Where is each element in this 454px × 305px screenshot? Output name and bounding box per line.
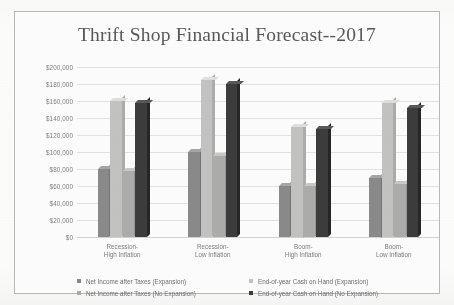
- bar: [135, 67, 147, 237]
- y-axis-tick: $120,000: [46, 132, 73, 139]
- bar: [188, 67, 200, 237]
- bar: [394, 67, 406, 237]
- y-axis-tick: $20,000: [50, 217, 73, 224]
- legend-item[interactable]: Net Income after Taxes (No Expansion): [77, 287, 249, 299]
- chart-frame: Thrift Shop Financial Forecast--2017 $0$…: [14, 11, 440, 294]
- legend-item[interactable]: End-of-year Cash on Hand (No Expansion): [249, 287, 437, 299]
- x-axis-label: Recession-Low Inflation: [168, 243, 259, 260]
- bar: [279, 67, 291, 237]
- y-axis-tick: $200,000: [46, 64, 73, 71]
- x-axis-label: Boom-High Inflation: [258, 243, 349, 260]
- y-axis-tick: $40,000: [50, 200, 73, 207]
- legend-swatch-icon: [77, 279, 81, 283]
- y-axis-tick: $100,000: [46, 149, 73, 156]
- legend-label: Net Income after Taxes (Expansion): [86, 278, 186, 285]
- gridline: [77, 237, 439, 238]
- bar-group: [77, 67, 168, 237]
- bar: [213, 67, 225, 237]
- bar-group: [349, 67, 440, 237]
- legend-label: End-of-year Cash on Hand (No Expansion): [258, 290, 378, 297]
- bar: [201, 67, 213, 237]
- legend-swatch-icon: [249, 291, 253, 295]
- plot-area: [77, 67, 439, 237]
- x-axis-label: Boom-Low Inflation: [349, 243, 440, 260]
- y-axis-tick: $0: [66, 234, 73, 241]
- y-axis-tick: $160,000: [46, 98, 73, 105]
- legend-item[interactable]: Net Income after Taxes (Expansion): [77, 275, 249, 287]
- y-axis-tick-labels: $0$20,000$40,000$60,000$80,000$100,000$1…: [25, 67, 73, 237]
- bar: [407, 67, 419, 237]
- legend-swatch-icon: [77, 291, 81, 295]
- bar: [98, 67, 110, 237]
- y-axis-tick: $80,000: [50, 166, 73, 173]
- bar: [110, 67, 122, 237]
- legend-swatch-icon: [249, 279, 253, 283]
- bar: [123, 67, 135, 237]
- chart-title: Thrift Shop Financial Forecast--2017: [15, 24, 439, 46]
- bar: [291, 67, 303, 237]
- legend-label: End-of-year Cash on Hand (Expansion): [258, 278, 368, 285]
- bar-group: [258, 67, 349, 237]
- x-axis-label: Recession-High Inflation: [77, 243, 168, 260]
- bar: [369, 67, 381, 237]
- bar: [316, 67, 328, 237]
- y-axis-tick: $180,000: [46, 81, 73, 88]
- chart-legend: Net Income after Taxes (Expansion)End-of…: [77, 275, 437, 299]
- bar: [382, 67, 394, 237]
- bar: [304, 67, 316, 237]
- y-axis-tick: $60,000: [50, 183, 73, 190]
- legend-label: Net Income after Taxes (No Expansion): [86, 290, 196, 297]
- legend-item[interactable]: End-of-year Cash on Hand (Expansion): [249, 275, 437, 287]
- bar-group: [168, 67, 259, 237]
- y-axis-tick: $140,000: [46, 115, 73, 122]
- bar: [226, 67, 238, 237]
